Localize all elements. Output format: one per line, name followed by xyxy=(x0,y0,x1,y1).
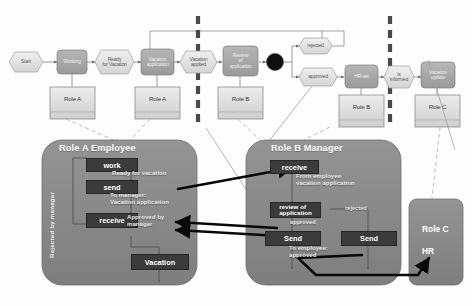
flow-node-hr-set[interactable] xyxy=(345,65,378,88)
flow-node-vacation-application[interactable] xyxy=(141,49,174,75)
pool-b-step-send-2[interactable]: Send xyxy=(341,231,397,246)
pool-b-annotation-from-employee: From employee vacation application xyxy=(296,173,392,187)
flow-node-rejected[interactable] xyxy=(299,38,332,54)
role-box-a2[interactable] xyxy=(135,75,180,119)
diagram-canvas: Start Working Ready for Vacation Vacatio… xyxy=(0,0,472,306)
role-box-b1[interactable] xyxy=(218,76,263,119)
pool-b-annotation-to-employee: To employee: approved xyxy=(289,245,359,259)
role-box-c1[interactable] xyxy=(415,88,460,127)
role-box-a1[interactable] xyxy=(50,74,95,119)
pool-b-annotation-approved: approved xyxy=(290,219,338,225)
flow-node-working[interactable] xyxy=(57,50,87,74)
flow-node-review-of-application[interactable] xyxy=(223,46,258,76)
pool-a-annotation-ready: Ready for vacation xyxy=(112,170,197,177)
flow-node-ready-for-vacation[interactable] xyxy=(95,50,134,74)
flow-node-vacation-update[interactable] xyxy=(421,62,455,88)
flow-node-approved[interactable] xyxy=(299,68,337,86)
pool-a-side-label: Rejected by manager xyxy=(48,168,55,258)
pool-role-c-hr[interactable] xyxy=(409,199,463,285)
pool-role-c-title-line1: Role C xyxy=(422,224,449,234)
diagram-shapes-layer xyxy=(0,0,472,306)
role-box-b2[interactable] xyxy=(339,88,384,127)
flow-node-is-informed[interactable] xyxy=(384,66,414,88)
flow-node-vacation-applied[interactable] xyxy=(180,51,217,73)
flow-connector-xor[interactable] xyxy=(267,54,284,71)
pool-role-b-title: Role B Manager xyxy=(271,143,343,153)
flow-node-start[interactable] xyxy=(9,52,43,72)
pool-b-annotation-rejected: rejected xyxy=(345,205,393,211)
pool-role-c-title-line2: HR xyxy=(422,246,434,256)
pool-a-annotation-to-manager: To manager: Vacation application xyxy=(110,192,200,206)
pool-b-step-review[interactable]: review of application xyxy=(270,202,321,218)
pool-role-a-title: Role A Employee xyxy=(59,143,136,153)
pool-a-annotation-approved: Approved by manager xyxy=(127,214,199,228)
pool-a-step-vacation[interactable]: Vacation xyxy=(131,254,189,270)
